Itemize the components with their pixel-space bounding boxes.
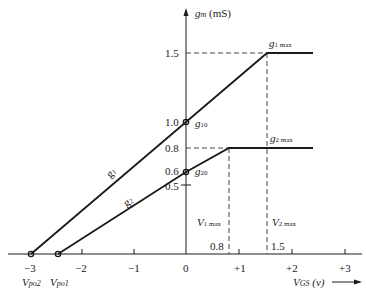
v1max-label: V1 max: [197, 216, 221, 230]
g10-label: g10: [195, 117, 208, 131]
v2max-value: 1.5: [271, 240, 285, 252]
x-tick-label-m2: −2: [75, 262, 87, 274]
g2max-label: g2 max: [270, 132, 293, 146]
y-tick-label-0.8: 0.8: [165, 142, 179, 154]
chart-plot: [0, 0, 366, 294]
y-tick-label-1.0: 1.0: [165, 116, 179, 128]
x-tick-label-p1: +1: [234, 262, 246, 274]
x-tick-label-p3: +3: [339, 262, 351, 274]
y-tick-label-1.5: 1.5: [165, 47, 179, 59]
x-axis-title: VGS (v): [293, 276, 324, 290]
x-label-arrow-icon: [354, 280, 362, 285]
g1max-label: g1 max: [269, 37, 292, 51]
x-tick-label-m1: −1: [128, 262, 140, 274]
x-tick-label-0: 0: [183, 262, 189, 274]
v1max-value: 0.8: [210, 240, 224, 252]
x-tick-label-m3: −3: [24, 262, 36, 274]
vpo1-label: Vpo1: [50, 276, 69, 290]
y-axis-arrow-icon: [184, 8, 189, 16]
g20-label: g20: [195, 165, 208, 179]
y-tick-label-0.5: 0.5: [165, 180, 179, 192]
y-tick-label-0.6: 0.6: [165, 165, 179, 177]
y-axis-title: gm (mS): [195, 7, 231, 21]
v2max-label: V2 max: [272, 216, 296, 230]
vpo2-label: Vpo2: [22, 276, 41, 290]
x-tick-label-p2: +2: [286, 262, 298, 274]
